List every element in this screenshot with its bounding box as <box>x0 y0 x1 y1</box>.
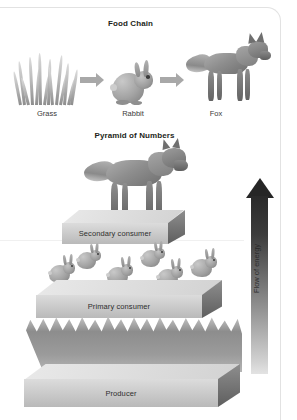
food-chain-label-grass: Grass <box>22 109 72 118</box>
tier-label-producer: Producer <box>105 389 136 398</box>
food-chain-section: Grass Rabbit Fox <box>0 33 281 123</box>
arrow-grass-to-rabbit <box>80 77 106 84</box>
pyramid-title: Pyramid of Numbers <box>0 131 283 140</box>
page-right-gutter <box>281 0 297 420</box>
grass-icon <box>18 51 74 105</box>
pyramid-grass-field <box>18 310 248 372</box>
pyramid-tier-producer: Producer <box>10 364 254 414</box>
slab-top-face <box>36 280 222 296</box>
fox-icon <box>188 27 272 107</box>
flow-of-energy-arrow: Flow of energy <box>246 178 276 374</box>
slab-front-face: Secondary consumer <box>62 223 168 244</box>
arrow-rabbit-to-fox <box>160 77 186 84</box>
slab-top-face <box>62 210 184 224</box>
pyramid-section: Secondary consumer <box>0 144 281 420</box>
slab-top-face <box>24 364 240 380</box>
rabbit-icon <box>76 244 106 270</box>
food-chain-label-fox: Fox <box>196 109 236 118</box>
food-chain-label-rabbit: Rabbit <box>108 109 158 118</box>
pyramid-rabbit-group <box>28 242 238 280</box>
arrow-head-icon <box>246 178 274 198</box>
rabbit-icon <box>110 55 158 105</box>
flow-of-energy-label: Flow of energy <box>252 231 261 307</box>
slab-front-face: Producer <box>24 379 218 407</box>
rabbit-icon <box>190 250 222 278</box>
tier-label-secondary-consumer: Secondary consumer <box>79 229 152 238</box>
